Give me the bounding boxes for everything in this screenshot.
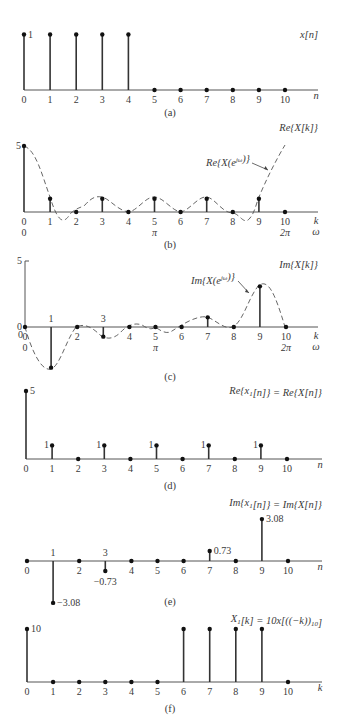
panel-caption: (f) bbox=[165, 703, 176, 715]
stem-dot bbox=[233, 457, 237, 461]
stem-dot bbox=[74, 32, 78, 36]
stem-dot bbox=[100, 197, 104, 201]
x-tick-label: 2 bbox=[76, 463, 81, 474]
x-tick-label: 9 bbox=[258, 463, 263, 474]
value-label: 1 bbox=[28, 29, 33, 40]
stem-dot bbox=[49, 365, 53, 369]
stem-dot bbox=[22, 32, 26, 36]
x-tick-label: 0 bbox=[23, 331, 28, 342]
stem-dot bbox=[128, 457, 132, 461]
x-tick-label: 7 bbox=[207, 565, 212, 576]
x-tick-label: 8 bbox=[232, 463, 237, 474]
x-tick-label: 3 bbox=[103, 686, 108, 697]
x-tick-label: 5 bbox=[153, 331, 158, 342]
x-tick-label: 6 bbox=[180, 463, 185, 474]
panel-caption: (d) bbox=[164, 480, 177, 492]
arrow-head-icon bbox=[264, 166, 268, 170]
x-tick-label: 5 bbox=[155, 686, 160, 697]
panel-a-stem-plot: 012345678910n1x[n](a) bbox=[22, 29, 319, 120]
stem-dot bbox=[283, 88, 287, 92]
x-tick-label: 6 bbox=[179, 331, 184, 342]
stem-dot bbox=[208, 627, 212, 631]
x-tick-label: 7 bbox=[205, 331, 210, 342]
omega-tick-label: 2π bbox=[280, 227, 291, 238]
value-label: 1 bbox=[253, 439, 258, 450]
panel-title: Im{X(ejω)} bbox=[190, 271, 236, 287]
stem-dot bbox=[100, 32, 104, 36]
y-tick-label: 5 bbox=[17, 255, 22, 266]
x-tick-label: 9 bbox=[256, 216, 261, 227]
x-tick-label: 4 bbox=[127, 331, 132, 342]
value-label: 1 bbox=[96, 439, 101, 450]
value-label: 5 bbox=[30, 385, 35, 396]
x-tick-label: 3 bbox=[101, 313, 106, 324]
x-tick-label: 1 bbox=[48, 216, 53, 227]
stem-dot bbox=[207, 443, 211, 447]
stem-dot bbox=[284, 325, 288, 329]
x-tick-label: 3 bbox=[100, 94, 105, 105]
x-tick-label: 6 bbox=[178, 216, 183, 227]
panel-d-stem-plot: 012345678910n511111Re{x1[n]} = Re{X[n]}(… bbox=[24, 385, 323, 492]
stem-dot bbox=[77, 559, 81, 563]
x-axis-label-omega: ω bbox=[312, 226, 319, 237]
stem-dot bbox=[75, 325, 79, 329]
panel-title: Re{X(ejω)} bbox=[205, 153, 251, 169]
value-label: 1 bbox=[44, 439, 49, 450]
x-axis-label: n bbox=[317, 459, 322, 470]
stem-dot bbox=[126, 210, 130, 214]
stem-dot bbox=[283, 210, 287, 214]
x-tick-label: 1 bbox=[48, 94, 53, 105]
panel-caption: (c) bbox=[164, 371, 176, 383]
x-tick-label: 4 bbox=[129, 686, 134, 697]
value-label: 1 bbox=[149, 439, 154, 450]
stem-dot bbox=[234, 627, 238, 631]
x-tick-label: 9 bbox=[259, 565, 264, 576]
panel-title: Re{X[k]} bbox=[278, 122, 319, 133]
stem-dot bbox=[206, 315, 210, 319]
stem-dot bbox=[260, 517, 264, 521]
stem-dot bbox=[257, 197, 261, 201]
x-tick-label: 0 bbox=[25, 565, 30, 576]
x-tick-label: 0 bbox=[24, 463, 29, 474]
stem-dot bbox=[101, 334, 105, 338]
panel-title: X1[k] = 10x[((−k))10] bbox=[230, 613, 322, 628]
panel-c-stem-plot: 5000123456789100π2πkωIm{X[k]}Im{X(ejω)}(… bbox=[17, 255, 320, 383]
value-label: 1 bbox=[201, 439, 206, 450]
stem-dot bbox=[286, 559, 290, 563]
x-tick-label: 7 bbox=[206, 463, 211, 474]
x-tick-label: 2 bbox=[74, 94, 79, 105]
stem-dot bbox=[285, 457, 289, 461]
omega-tick-label: 2π bbox=[281, 342, 292, 353]
x-axis-label: k bbox=[314, 215, 319, 226]
stem-dot bbox=[234, 559, 238, 563]
stem-dot bbox=[102, 443, 106, 447]
dft-figure: 012345678910n1x[n](a) 50123456789100π2πk… bbox=[0, 0, 346, 724]
x-tick-label: 10 bbox=[280, 94, 290, 105]
stem-dot bbox=[22, 144, 26, 148]
stem-dot bbox=[50, 443, 54, 447]
x-tick-label: 3 bbox=[103, 547, 108, 558]
x-tick-label: 0 bbox=[22, 94, 27, 105]
stem-dot bbox=[231, 88, 235, 92]
x-tick-label: 10 bbox=[283, 565, 293, 576]
stem-dot bbox=[232, 325, 236, 329]
x-tick-label: 4 bbox=[126, 216, 131, 227]
stem-dot bbox=[74, 210, 78, 214]
stem-dot bbox=[257, 88, 261, 92]
x-tick-label: 5 bbox=[152, 216, 157, 227]
stem-dot bbox=[178, 210, 182, 214]
x-tick-label: 4 bbox=[128, 463, 133, 474]
stem-dot bbox=[155, 559, 159, 563]
y-tick-label: 5 bbox=[16, 140, 21, 151]
stem-dot bbox=[24, 389, 28, 393]
stem-dot bbox=[205, 197, 209, 201]
x-tick-label: 2 bbox=[74, 216, 79, 227]
stem-dot bbox=[23, 325, 27, 329]
stem-dot bbox=[155, 680, 159, 684]
x-axis-label: n bbox=[313, 90, 318, 101]
stem-dot bbox=[205, 88, 209, 92]
x-tick-label: 9 bbox=[259, 686, 264, 697]
panel-title: Im{X[k]} bbox=[278, 259, 319, 270]
x-tick-label: 10 bbox=[280, 216, 290, 227]
x-tick-label: 8 bbox=[230, 94, 235, 105]
